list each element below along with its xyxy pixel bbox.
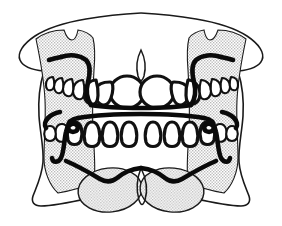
- upper-premolar-right-1: [200, 80, 211, 99]
- upper-left-retention-arm: [49, 57, 61, 60]
- upper-central-incisor-right: [140, 76, 174, 108]
- upper-molar-left-1: [54, 78, 63, 93]
- upper-right-retention-arm: [221, 57, 233, 60]
- lower-central-incisor-right: [145, 122, 160, 147]
- upper-premolar-right-2: [211, 79, 221, 96]
- lower-lateral-incisor-left: [102, 122, 117, 147]
- dental-arch-illustration: Line drawing of maxillary and mandibular…: [0, 0, 282, 226]
- upper-premolar-left-1: [73, 80, 84, 99]
- upper-molar-right-2: [230, 77, 238, 90]
- upper-molar-left-2: [46, 77, 54, 90]
- illustration-canvas: Line drawing of maxillary and mandibular…: [0, 0, 282, 226]
- upper-premolar-left-2: [63, 79, 73, 96]
- lower-central-incisor-left: [121, 122, 136, 147]
- upper-molar-right-1: [221, 78, 230, 93]
- lower-lateral-incisor-right: [164, 122, 179, 147]
- lower-canine-left: [84, 122, 99, 147]
- lower-canine-right: [182, 122, 197, 147]
